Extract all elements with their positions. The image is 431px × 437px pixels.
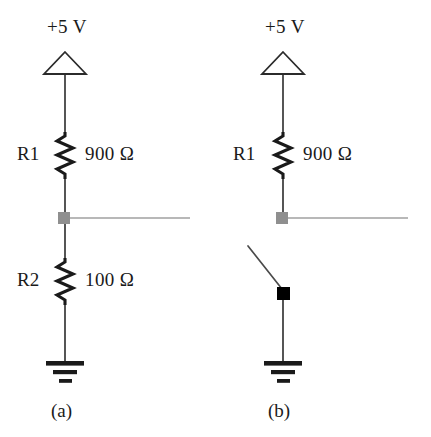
resistor-r1-zigzag-icon <box>275 132 291 179</box>
resistor-r1-refdes-label-b: R1 <box>233 144 255 163</box>
circuit-schematic-canvas <box>0 0 431 437</box>
ground-icon <box>264 361 302 383</box>
power-supply-triangle-icon <box>44 52 86 74</box>
power-supply-triangle-icon <box>262 52 304 74</box>
resistor-r1-zigzag-icon <box>57 132 73 179</box>
switch-pivot-terminal <box>277 287 290 300</box>
supply-label-a: +5 V <box>47 17 87 36</box>
resistor-r2-refdes-label-a: R2 <box>17 270 39 289</box>
supply-label-b: +5 V <box>265 17 305 36</box>
ground-icon <box>46 361 84 383</box>
resistor-r1-value-label-a: 900 Ω <box>85 144 134 163</box>
circuit-a <box>44 52 190 383</box>
resistor-r1-value-label-b: 900 Ω <box>303 144 352 163</box>
caption-a: (a) <box>51 401 72 420</box>
circuit-figure: +5 V R1 900 Ω R2 100 Ω (a) +5 V R1 900 Ω… <box>0 0 431 437</box>
resistor-r2-zigzag-icon <box>57 258 73 305</box>
junction-node-square <box>276 212 288 224</box>
circuit-b <box>248 52 408 383</box>
caption-b: (b) <box>268 401 290 420</box>
resistor-r1-refdes-label-a: R1 <box>17 144 39 163</box>
switch-blade-line <box>248 246 282 289</box>
open-switch-icon <box>248 246 290 300</box>
resistor-r2-value-label-a: 100 Ω <box>85 270 134 289</box>
junction-node-square <box>58 212 70 224</box>
